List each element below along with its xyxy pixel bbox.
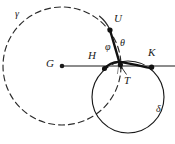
point-label-G: G xyxy=(46,58,54,69)
point-dot-G xyxy=(60,64,65,69)
curve-label-gamma: γ xyxy=(15,9,19,19)
point-label-K: K xyxy=(148,47,155,58)
point-dot-U xyxy=(107,27,112,32)
point-dot-T xyxy=(118,62,123,67)
curve-label-delta: δ xyxy=(156,104,161,114)
diagram-canvas xyxy=(0,0,175,144)
point-dot-H xyxy=(102,66,107,71)
point-label-T: T xyxy=(124,75,130,86)
circle-delta xyxy=(92,61,164,133)
angle-label-phi: φ xyxy=(105,42,111,52)
point-label-H: H xyxy=(88,50,96,61)
angle-label-theta: θ xyxy=(120,38,125,48)
arc-above-u xyxy=(100,16,110,29)
point-dot-K xyxy=(149,65,154,70)
geometry-diagram: G H T K U φ θ γ δ xyxy=(0,0,175,144)
point-label-U: U xyxy=(114,13,122,24)
t-tick xyxy=(117,66,118,74)
